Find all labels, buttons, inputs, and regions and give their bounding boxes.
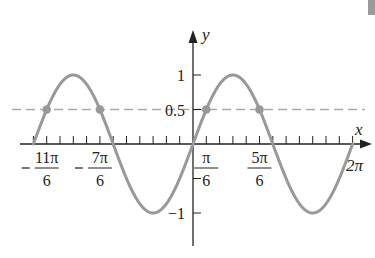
fraction-denominator: 6 (256, 172, 264, 189)
x-tick-label-fraction: π6 (194, 149, 218, 189)
y-tick-label: 0.5 (165, 102, 185, 119)
intersection-point (42, 105, 51, 114)
y-tick-label: 1 (177, 67, 185, 84)
intersection-point (202, 105, 211, 114)
x-tick-label-fraction: 7π6 (75, 149, 112, 189)
intersection-point (255, 105, 264, 114)
sine-graph: yx10.5−111π67π6π65π62π (0, 0, 375, 258)
x-axis-arrow-icon (360, 140, 372, 149)
corner-marker (368, 0, 375, 15)
fraction-numerator: 5π (251, 149, 267, 166)
fraction-numerator: 11π (35, 149, 58, 166)
x-tick-label-fraction: 5π6 (248, 149, 272, 189)
intersection-point (96, 105, 105, 114)
fraction-denominator: 6 (96, 172, 104, 189)
x-tick-label: 2π (346, 156, 364, 175)
x-tick-label-fraction: 11π6 (22, 149, 59, 189)
y-axis-label: y (200, 25, 210, 44)
fraction-numerator: 7π (92, 149, 108, 166)
fraction-denominator: 6 (43, 172, 51, 189)
y-axis-arrow-icon (189, 30, 198, 43)
fraction-numerator: π (202, 149, 210, 166)
y-tick-label: −1 (168, 205, 185, 222)
fraction-denominator: 6 (202, 172, 210, 189)
x-axis-label: x (354, 120, 363, 139)
